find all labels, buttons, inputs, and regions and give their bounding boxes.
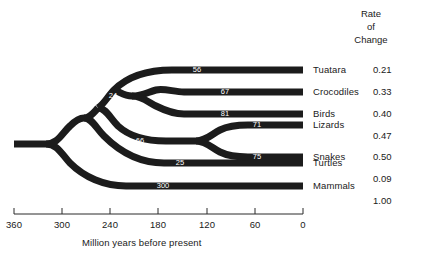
taxon-label-turtles: Turtles: [313, 157, 342, 168]
taxon-label-birds: Birds: [313, 108, 335, 119]
branch-label-mammals: 300: [157, 181, 170, 190]
x-axis-title: Million years before present: [82, 237, 202, 248]
x-tick-label-360: 360: [0, 219, 34, 230]
branch-label-archosaur-node: 24: [109, 91, 117, 100]
branch-label-lizards: 71: [253, 120, 261, 129]
rate-value-snakes: 0.50: [373, 151, 415, 162]
birds-branch: [132, 96, 303, 114]
rate-value-tuatara: 0.21: [373, 64, 415, 75]
rate-value-mammals: 1.00: [373, 195, 415, 206]
x-tick-label-240: 240: [90, 219, 130, 230]
rate-value-birds: 0.40: [373, 108, 415, 119]
rate-value-crocodiles: 0.33: [373, 86, 415, 97]
x-tick-label-300: 300: [42, 219, 82, 230]
taxon-label-tuatara: Tuatara: [313, 64, 346, 75]
crocodiles-branch: [132, 89, 303, 96]
rate-header-line-1: Rate: [339, 8, 403, 19]
branch-label-turtles: 25: [176, 158, 184, 167]
rate-header-line-2: of: [339, 21, 403, 32]
lizards-branch: [196, 125, 303, 141]
x-tick-label-0: 0: [283, 219, 323, 230]
taxon-label-crocodiles: Crocodiles: [313, 86, 359, 97]
x-tick-label-180: 180: [138, 219, 178, 230]
branch-label-lepidosaur-node: 66: [136, 136, 144, 145]
rate-header-line-3: Change: [339, 34, 403, 45]
branch-label-tuatara: 56: [193, 65, 201, 74]
rate-value-lizards: 0.47: [373, 130, 415, 141]
branch-label-snakes: 75: [253, 152, 261, 161]
amniote-stem: [84, 108, 98, 118]
taxon-label-lizards: Lizards: [313, 119, 344, 130]
snakes-branch: [196, 141, 303, 157]
taxon-label-mammals: Mammals: [313, 180, 355, 191]
phylogenetic-tree-figure: 56 67 81 71 75 25 300 24 66 80 Rate of C…: [0, 0, 423, 257]
branch-label-birds: 81: [221, 109, 229, 118]
x-tick-label-120: 120: [187, 219, 227, 230]
rate-value-turtles: 0.09: [373, 173, 415, 184]
reptile-root-branch: [46, 118, 84, 144]
branch-label-crocodiles: 67: [221, 87, 229, 96]
x-tick-label-60: 60: [235, 219, 275, 230]
